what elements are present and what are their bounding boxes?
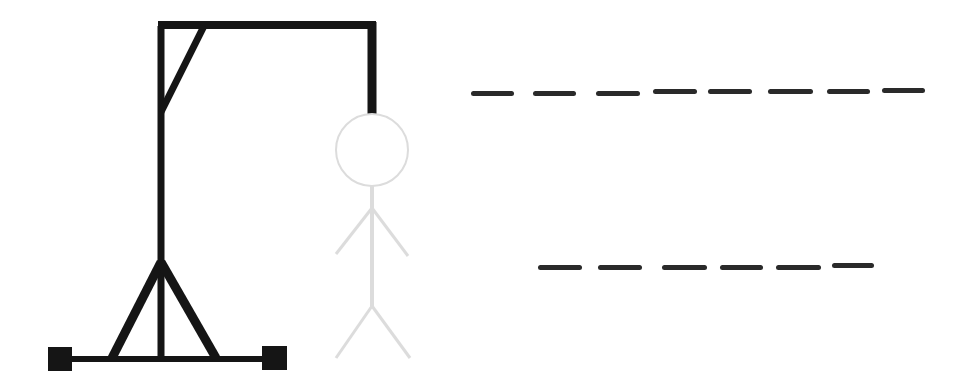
letter-blank [776,265,821,270]
letter-blank [653,89,697,94]
letter-blank [471,91,514,96]
figure-head [336,114,408,186]
gallows-brace [161,26,204,112]
letter-blank [533,91,576,96]
figure-right-leg [372,306,410,358]
hangman-figure [336,114,410,358]
figure-left-arm [336,208,372,254]
letter-blank [827,89,870,94]
letter-blank [598,265,642,270]
gallows-base-right-block [262,346,287,370]
figure-right-arm [372,208,408,256]
letter-blank [768,89,813,94]
gallows-left-leg [112,262,161,358]
letter-blank [596,91,640,96]
letter-blank [662,265,707,270]
gallows [48,22,376,371]
letter-blank [708,89,752,94]
hangman-board [0,0,975,377]
letter-blank [882,88,925,93]
letter-blank [538,265,582,270]
gallows-base-left-block [48,347,72,371]
letter-blank [832,263,874,268]
letter-blank [720,265,763,270]
figure-left-leg [336,306,372,358]
gallows-right-leg [161,262,216,358]
